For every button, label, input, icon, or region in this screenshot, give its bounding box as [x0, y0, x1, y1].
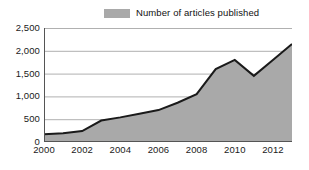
- y-axis-tick-label-2000: 2,000: [0, 46, 40, 56]
- area-series-fill: [44, 44, 292, 142]
- y-axis-tick-label-2500: 2,500: [0, 23, 40, 33]
- y-axis-tick-label-500: 500: [0, 114, 40, 124]
- articles-published-area-chart: Number of articles published 05001,0001,…: [0, 0, 309, 170]
- chart-legend: Number of articles published: [104, 7, 259, 19]
- x-axis-labels: 2000200220042006200820102012: [0, 144, 309, 160]
- y-axis-tick-label-1500: 1,500: [0, 69, 40, 79]
- x-axis-tick-label-2010: 2010: [224, 144, 246, 155]
- x-axis-tick-label-2012: 2012: [262, 144, 284, 155]
- x-axis-tick-label-2008: 2008: [186, 144, 208, 155]
- x-axis-tick-label-2006: 2006: [148, 144, 170, 155]
- x-axis-tick-label-2002: 2002: [71, 144, 93, 155]
- x-axis-tick-label-2004: 2004: [110, 144, 132, 155]
- plot-area: [44, 28, 292, 142]
- y-axis-tick-label-1000: 1,000: [0, 91, 40, 101]
- x-axis-tick-label-2000: 2000: [33, 144, 55, 155]
- plot-svg: [44, 28, 292, 142]
- legend-label: Number of articles published: [136, 8, 259, 18]
- legend-color-swatch: [104, 9, 130, 18]
